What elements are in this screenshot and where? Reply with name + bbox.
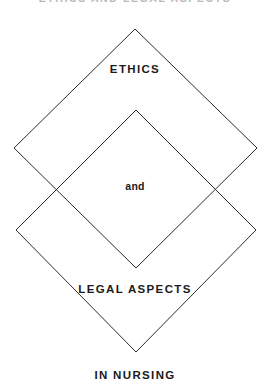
overlapping-diamonds-diagram: [0, 0, 270, 388]
label-ethics: ETHICS: [0, 63, 270, 75]
diagram-page: ETHICS AND LEGAL ASPECTS ETHICS and LEGA…: [0, 0, 270, 388]
lower-diamond-shape: [16, 110, 256, 352]
label-in-nursing: IN NURSING: [0, 369, 270, 381]
label-legal-aspects: LEGAL ASPECTS: [0, 283, 270, 295]
label-and: and: [0, 180, 270, 192]
